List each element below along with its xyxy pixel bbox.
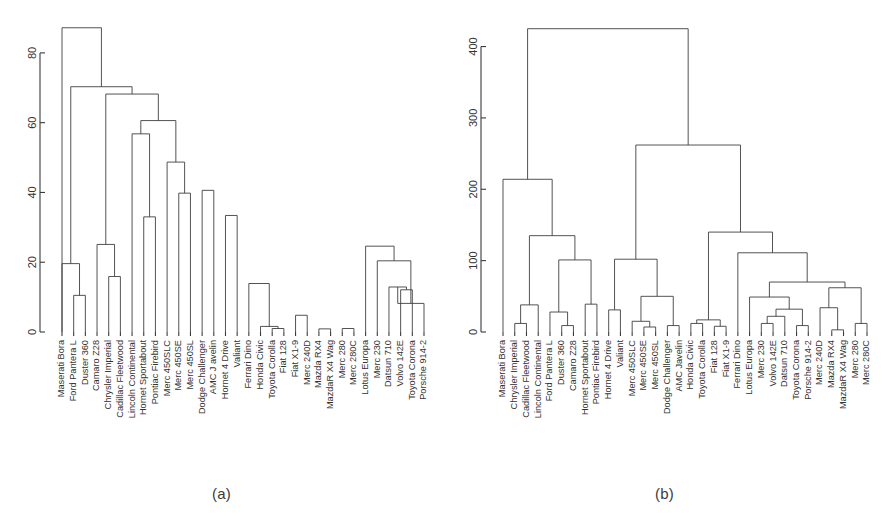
svg-text:Merc 280C: Merc 280C <box>861 340 871 385</box>
svg-text:Cadillac Fleetwood: Cadillac Fleetwood <box>115 340 125 418</box>
svg-text:Fiat X1-9: Fiat X1-9 <box>721 340 731 377</box>
dendrogram-plot-a: 020406080Maserati BoraFord Pantera LDust… <box>0 0 443 470</box>
svg-text:60: 60 <box>26 117 38 129</box>
svg-text:Merc 240D: Merc 240D <box>302 340 312 385</box>
svg-text:Datsun 710: Datsun 710 <box>779 340 789 387</box>
svg-text:Ferrari Dino: Ferrari Dino <box>732 340 742 389</box>
svg-text:Hornet Sportabout: Hornet Sportabout <box>138 340 148 416</box>
svg-text:Datsun 710: Datsun 710 <box>383 340 393 387</box>
svg-text:Hornet 4 Drive: Hornet 4 Drive <box>220 340 230 399</box>
panel-a: 020406080Maserati BoraFord Pantera LDust… <box>0 0 443 516</box>
svg-text:20: 20 <box>26 256 38 268</box>
svg-text:Merc 230: Merc 230 <box>372 340 382 378</box>
svg-text:Merc 450SE: Merc 450SE <box>638 340 648 391</box>
svg-text:Ferrari Dino: Ferrari Dino <box>243 340 253 389</box>
svg-text:AMC Javelin: AMC Javelin <box>674 340 684 392</box>
svg-text:Pontiac Firebird: Pontiac Firebird <box>591 340 601 404</box>
svg-text:MazdaR X4 Wag: MazdaR X4 Wag <box>325 340 335 409</box>
svg-text:80: 80 <box>26 47 38 59</box>
svg-text:Dodge Challenger: Dodge Challenger <box>197 340 207 414</box>
svg-text:Toyota Corolla: Toyota Corolla <box>697 339 707 399</box>
svg-text:Toyota Corona: Toyota Corona <box>791 339 801 400</box>
svg-text:Merc 240D: Merc 240D <box>814 340 824 385</box>
svg-text:Merc 280: Merc 280 <box>850 340 860 378</box>
svg-text:Merc 450SLC: Merc 450SLC <box>627 340 637 397</box>
svg-text:Honda Civic: Honda Civic <box>685 340 695 390</box>
svg-text:Merc 450SLC: Merc 450SLC <box>162 340 172 397</box>
svg-text:0: 0 <box>467 329 479 335</box>
svg-text:Volvo 142E: Volvo 142E <box>395 340 405 386</box>
svg-text:MazdaR X4 Wag: MazdaR X4 Wag <box>838 340 848 409</box>
svg-text:Valiant: Valiant <box>232 340 242 368</box>
svg-text:Lotus Europa: Lotus Europa <box>744 339 754 395</box>
svg-text:Toyota Corona: Toyota Corona <box>407 339 417 400</box>
svg-text:Porsche 914-2: Porsche 914-2 <box>803 340 813 400</box>
svg-text:Merc 230: Merc 230 <box>756 340 766 378</box>
svg-text:Camaro Z28: Camaro Z28 <box>91 340 101 391</box>
svg-text:400: 400 <box>467 37 479 55</box>
svg-text:Mazda RX4: Mazda RX4 <box>313 340 323 388</box>
svg-text:Merc 450SL: Merc 450SL <box>650 340 660 390</box>
svg-text:Duster 360: Duster 360 <box>80 340 90 385</box>
svg-text:Camaro Z28: Camaro Z28 <box>568 340 578 391</box>
svg-text:Pontiac Firebird: Pontiac Firebird <box>150 340 160 404</box>
panel-b-caption: (b) <box>443 485 886 502</box>
svg-text:Volvo 142E: Volvo 142E <box>768 340 778 386</box>
svg-text:Chrysler Imperial: Chrysler Imperial <box>509 340 519 409</box>
svg-text:Maserati Bora: Maserati Bora <box>56 339 66 397</box>
svg-text:Mazda RX4: Mazda RX4 <box>826 340 836 388</box>
svg-text:200: 200 <box>467 180 479 198</box>
svg-text:AMC J avelin: AMC J avelin <box>208 340 218 394</box>
svg-text:Ford Pantera L: Ford Pantera L <box>68 340 78 401</box>
svg-text:100: 100 <box>467 251 479 269</box>
svg-text:Hornet 4 Drive: Hornet 4 Drive <box>603 340 613 399</box>
svg-text:Fiat 128: Fiat 128 <box>709 340 719 373</box>
svg-text:Chrysler Imperial: Chrysler Imperial <box>103 340 113 409</box>
svg-text:Lincoln Continental: Lincoln Continental <box>127 340 137 418</box>
svg-text:Fiat 128: Fiat 128 <box>278 340 288 373</box>
svg-text:40: 40 <box>26 186 38 198</box>
svg-text:0: 0 <box>26 329 38 335</box>
svg-text:Cadillac Fleetwood: Cadillac Fleetwood <box>521 340 531 418</box>
svg-text:300: 300 <box>467 109 479 127</box>
svg-text:Valiant: Valiant <box>615 340 625 368</box>
svg-text:Merc 280: Merc 280 <box>337 340 347 378</box>
svg-text:Honda Civic: Honda Civic <box>255 340 265 390</box>
dendrogram-plot-b: 0100200300400Maserati BoraChrysler Imper… <box>443 0 886 470</box>
panel-a-caption: (a) <box>0 485 443 502</box>
svg-text:Merc 280C: Merc 280C <box>348 340 358 385</box>
svg-text:Toyota Corolla: Toyota Corolla <box>267 339 277 399</box>
svg-text:Ford Pantera L: Ford Pantera L <box>544 340 554 401</box>
svg-text:Duster 360: Duster 360 <box>556 340 566 385</box>
svg-text:Hornet Sportabout: Hornet Sportabout <box>580 340 590 416</box>
svg-text:Lincoln Continental: Lincoln Continental <box>533 340 543 418</box>
svg-text:Porsche 914-2: Porsche 914-2 <box>418 340 428 400</box>
svg-text:Lotus Europa: Lotus Europa <box>360 339 370 395</box>
svg-text:Merc 450SE: Merc 450SE <box>173 340 183 391</box>
svg-text:Maserati Bora: Maserati Bora <box>497 339 507 397</box>
svg-text:Dodge Challenger: Dodge Challenger <box>662 340 672 414</box>
svg-text:Merc 450SL: Merc 450SL <box>185 340 195 390</box>
svg-text:Fiat X1-9: Fiat X1-9 <box>290 340 300 377</box>
dendrogram-figure: 020406080Maserati BoraFord Pantera LDust… <box>0 0 886 516</box>
panel-b: 0100200300400Maserati BoraChrysler Imper… <box>443 0 886 516</box>
